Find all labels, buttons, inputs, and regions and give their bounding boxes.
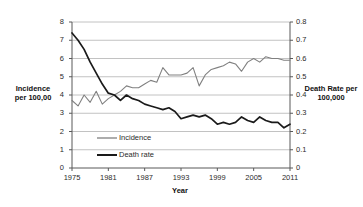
y-axis-left-tick: 7 [48, 36, 64, 44]
y-axis-left-tick: 2 [48, 128, 64, 136]
y-axis-right-tick: 0.7 [296, 36, 318, 44]
x-axis-tick: 1987 [131, 174, 159, 182]
series-line-incidence [72, 57, 290, 106]
y-axis-left-tick: 0 [48, 164, 64, 172]
y-axis-right-tick: 0.5 [296, 73, 318, 81]
y-axis-right-tick: 0.3 [296, 109, 318, 117]
y-axis-left-tick: 8 [48, 18, 64, 26]
x-axis-tick: 1981 [94, 174, 122, 182]
y-axis-left-tick: 6 [48, 55, 64, 63]
x-axis-tick: 2005 [240, 174, 268, 182]
y-axis-right-title: Death Rate per100,000 [300, 84, 362, 103]
y-axis-right-tick: 0.1 [296, 146, 318, 154]
x-axis-tick: 1999 [203, 174, 231, 182]
y-axis-left-tick: 1 [48, 146, 64, 154]
x-axis-tick: 2011 [276, 174, 304, 182]
legend-swatches [97, 138, 117, 155]
chart-container: 012345678 00.10.20.30.40.50.60.70.8 1975… [0, 0, 363, 207]
x-axis-tick: 1993 [167, 174, 195, 182]
y-axis-right-tick: 0 [296, 164, 318, 172]
legend-label-incidence: Incidence [119, 134, 151, 142]
y-axis-right-tick: 0.8 [296, 18, 318, 26]
y-axis-left-tick: 5 [48, 73, 64, 81]
legend-label-death-rate: Death rate [119, 151, 154, 159]
y-axis-left-title: Incidenceper 100,00 [2, 84, 64, 103]
x-axis-tick: 1975 [58, 174, 86, 182]
tick-marks [69, 22, 293, 171]
gridlines [72, 22, 290, 168]
y-axis-right-tick: 0.2 [296, 128, 318, 136]
y-axis-right-tick: 0.6 [296, 55, 318, 63]
x-axis-title: Year [155, 186, 205, 195]
y-axis-left-tick: 3 [48, 109, 64, 117]
